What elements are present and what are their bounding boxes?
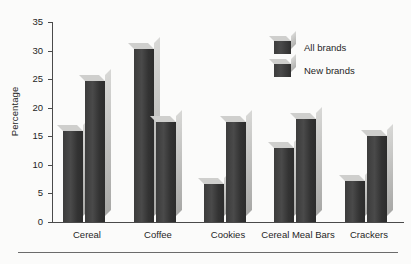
bar-side-face (387, 124, 393, 216)
legend-label: All brands (304, 42, 346, 53)
bottom-divider-rule (18, 252, 398, 253)
x-axis-line (52, 222, 404, 223)
bar-front-face (134, 49, 154, 222)
bar-front-face (345, 181, 365, 222)
y-tick-label: 0 (25, 216, 43, 227)
bar-new-brands-cereal (85, 81, 105, 222)
bar-front-face (85, 81, 105, 222)
bar-front-face (156, 122, 176, 222)
bar-side-face (176, 110, 182, 216)
bar-new-brands-cookies (226, 122, 246, 222)
legend-swatch-side (291, 54, 296, 72)
legend-label: New brands (304, 65, 355, 76)
y-tick-label: 15 (25, 130, 43, 141)
y-tick-label: 20 (25, 102, 43, 113)
bar-new-brands-crackers (367, 136, 387, 222)
bar-front-face (204, 184, 224, 222)
y-axis-line (52, 22, 53, 223)
bar-front-face (63, 131, 83, 222)
bar-all-brands-coffee (134, 49, 154, 222)
y-axis-label: Percentage (9, 52, 20, 172)
bar-new-brands-cereal-meal-bars (296, 119, 316, 222)
bar-side-face (316, 107, 322, 216)
bar-all-brands-crackers (345, 181, 365, 222)
y-tick-label: 5 (25, 187, 43, 198)
x-tick-label-crackers: Crackers (330, 229, 408, 241)
bar-front-face (367, 136, 387, 222)
legend-swatch-side (291, 31, 296, 49)
y-tick-label: 25 (25, 73, 43, 84)
y-tick-label: 30 (25, 45, 43, 56)
legend-swatch-front (274, 64, 291, 77)
bar-side-face (105, 69, 111, 216)
x-tick-label-coffee: Coffee (119, 229, 197, 241)
bar-all-brands-cereal-meal-bars (274, 148, 294, 222)
legend-swatch-front (274, 41, 291, 54)
bar-all-brands-cereal (63, 131, 83, 222)
legend-swatch (274, 41, 291, 54)
bar-new-brands-coffee (156, 122, 176, 222)
legend-swatch (274, 64, 291, 77)
x-tick-label-cereal-meal-bars: Cereal Meal Bars (259, 229, 337, 241)
bar-front-face (226, 122, 246, 222)
x-tick-label-cookies: Cookies (189, 229, 267, 241)
bar-front-face (274, 148, 294, 222)
y-tick-label: 10 (25, 159, 43, 170)
chart-figure: Percentage 05101520253035 CerealCoffeeCo… (0, 0, 411, 264)
bar-front-face (296, 119, 316, 222)
y-tick-label: 35 (25, 16, 43, 27)
bar-side-face (246, 110, 252, 216)
x-tick-label-cereal: Cereal (48, 229, 126, 241)
bar-all-brands-cookies (204, 184, 224, 222)
